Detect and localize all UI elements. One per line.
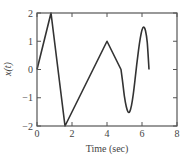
y-tick-label: 1 — [28, 36, 33, 47]
y-axis: −2−1012 — [22, 8, 177, 132]
y-tick-label: 0 — [28, 64, 33, 75]
x-tick-label: 0 — [35, 128, 40, 139]
x-tick-label: 6 — [140, 128, 145, 139]
y-axis-label: x(t) — [2, 61, 14, 77]
x-axis-label: Time (sec) — [86, 143, 129, 155]
series-line — [37, 13, 149, 126]
x-axis: 02468 — [35, 13, 180, 139]
x-tick-label: 4 — [105, 128, 110, 139]
line-chart: −2−1012 02468 Time (sec) x(t) — [0, 0, 191, 160]
y-tick-label: −1 — [22, 92, 33, 103]
x-tick-label: 2 — [70, 128, 75, 139]
plot-area — [37, 13, 149, 126]
x-tick-label: 8 — [175, 128, 180, 139]
y-tick-label: −2 — [22, 121, 33, 132]
y-tick-label: 2 — [28, 8, 33, 19]
